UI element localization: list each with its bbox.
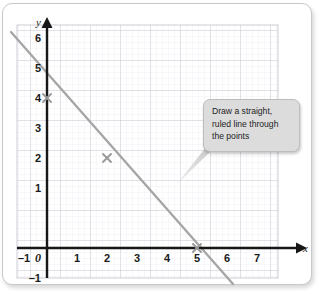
x-tick-label: 5 — [194, 252, 200, 264]
y-tick-label: 3 — [35, 122, 41, 134]
y-tick-label: 1 — [35, 182, 41, 194]
y-tick-label: 4 — [35, 92, 42, 104]
x-tick-label: 3 — [134, 252, 140, 264]
callout-bubble: Draw a straight, ruled line through the … — [203, 99, 300, 152]
y-tick-label: 6 — [35, 32, 41, 44]
callout-line-3: the points — [212, 130, 292, 143]
x-axis-label: x — [302, 242, 308, 254]
y-tick-label: 5 — [35, 62, 41, 74]
x-tick-label: 1 — [74, 252, 80, 264]
x-tick-label: 7 — [254, 252, 260, 264]
origin-label: 0 — [35, 251, 41, 265]
callout-line-1: Draw a straight, — [212, 105, 292, 118]
y-tick-label: –1 — [29, 272, 41, 284]
y-tick-label: 2 — [35, 152, 41, 164]
svg-text:0: 0 — [35, 251, 41, 265]
x-tick-label: 2 — [104, 252, 110, 264]
screenshot-root: –1 1 2 3 4 5 6 7 0 6 5 4 3 2 1 –1 — [0, 0, 321, 294]
y-axis-label: y — [35, 16, 41, 28]
x-tick-label: 4 — [164, 252, 171, 264]
x-tick-label: 6 — [224, 252, 230, 264]
x-tick-label: –1 — [18, 252, 30, 264]
callout-line-2: ruled line through — [212, 118, 292, 131]
